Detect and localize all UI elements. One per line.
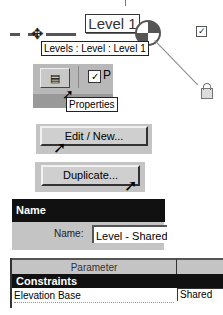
edit-new-label: Edit / New... [65,130,124,142]
level-line-dash [10,33,20,36]
padlock-icon[interactable] [201,88,213,99]
parameter-name-cell: Elevation Base [14,290,174,303]
tick-mark [125,0,126,6]
mouse-cursor-icon: ➚ [62,86,74,102]
properties-button[interactable]: ▤ [40,68,70,88]
level-name-label[interactable]: Level 1 [85,14,140,33]
mouse-cursor-icon: ➚ [124,176,137,195]
name-input[interactable]: Level - Shared [92,225,167,243]
duplicate-label: Duplicate... [63,169,118,181]
column-header-parameter[interactable]: Parameter [12,258,177,274]
mouse-cursor-icon: ➚ [53,138,66,157]
parameters-table: Parameter Constraints Elevation Base Sha… [10,258,223,308]
toolbar-checkbox[interactable]: ✓ [88,70,101,83]
element-properties-icon: ▤ [50,72,60,84]
column-header-value[interactable] [177,258,223,274]
name-section-header: Name [12,199,165,222]
level-line-dash [46,33,76,36]
name-label: Name: [54,228,83,239]
group-header-constraints[interactable]: Constraints [12,274,223,288]
move-icon[interactable]: ✥ [31,26,44,41]
toolbar-separator [78,66,79,88]
leader-line [154,40,198,85]
level-tooltip: Levels : Level : Level 1 [41,41,149,56]
checked-box-icon[interactable]: ✓ [196,26,207,37]
toolbar-checkbox-label: P [103,68,111,82]
parameter-value-cell[interactable]: Shared [177,288,223,301]
